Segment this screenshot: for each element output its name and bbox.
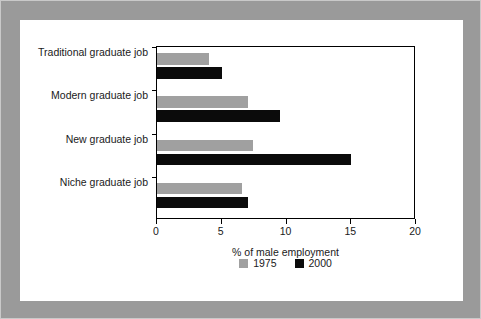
legend-label: 2000 <box>309 258 332 269</box>
bar-2000 <box>157 197 248 209</box>
x-tick-label: 5 <box>218 226 224 237</box>
category-tick <box>152 90 157 91</box>
x-tick-label: 0 <box>153 226 159 237</box>
x-axis-title: % of male employment <box>156 247 415 258</box>
bar-2000 <box>157 154 351 166</box>
bar-group: Traditional graduate job <box>157 47 414 90</box>
category-label: New graduate job <box>0 134 148 145</box>
bar-group: Niche graduate job <box>157 177 414 220</box>
x-tick <box>286 219 287 224</box>
legend-label: 1975 <box>253 258 276 269</box>
bar-1975 <box>157 140 253 152</box>
category-label: Modern graduate job <box>0 90 148 101</box>
x-tick <box>221 219 222 224</box>
bar-2000 <box>157 67 222 79</box>
category-label: Niche graduate job <box>0 177 148 188</box>
x-tick <box>156 219 157 224</box>
category-tick <box>152 134 157 135</box>
x-axis: 0 5 10 15 20 % of male employment <box>156 219 415 279</box>
legend-swatch-icon <box>295 259 304 268</box>
bar-group: Modern graduate job <box>157 90 414 133</box>
legend-swatch-icon <box>239 259 248 268</box>
figure-outer-frame: Traditional graduate job Modern graduate… <box>0 0 481 319</box>
legend-entry-1975: 1975 <box>239 258 276 269</box>
plot-area: Traditional graduate job Modern graduate… <box>156 46 415 219</box>
x-tick-label: 20 <box>409 226 421 237</box>
x-tick <box>415 219 416 224</box>
category-tick <box>152 177 157 178</box>
x-tick <box>350 219 351 224</box>
bar-group: New graduate job <box>157 134 414 177</box>
bar-1975 <box>157 53 209 65</box>
bar-1975 <box>157 183 242 195</box>
category-tick <box>152 47 157 48</box>
category-label: Traditional graduate job <box>0 47 148 58</box>
chart-legend: 1975 2000 <box>156 258 415 269</box>
x-tick-label: 15 <box>344 226 356 237</box>
bar-2000 <box>157 110 280 122</box>
legend-entry-2000: 2000 <box>295 258 332 269</box>
x-tick-label: 10 <box>280 226 292 237</box>
bar-1975 <box>157 96 248 108</box>
figure-canvas: Traditional graduate job Modern graduate… <box>20 20 463 301</box>
